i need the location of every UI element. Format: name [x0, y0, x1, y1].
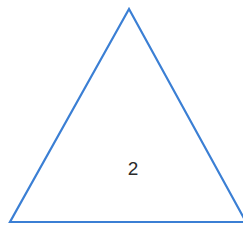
diagram-canvas: 2: [0, 0, 243, 239]
triangle-label: 2: [120, 157, 146, 181]
triangle-shape: [0, 0, 243, 239]
